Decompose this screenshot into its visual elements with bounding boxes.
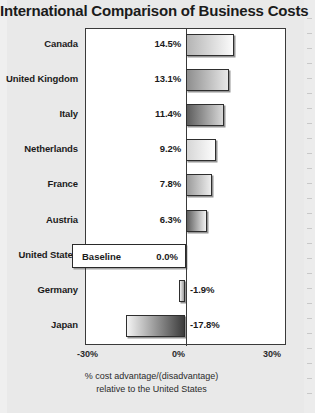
bar-row: Japan-17.8% — [0, 310, 315, 344]
category-label: United Kingdom — [0, 73, 78, 84]
category-label: Austria — [0, 214, 78, 225]
bar-row: Germany-1.9% — [0, 275, 315, 309]
scan-bleed-mark — [307, 393, 312, 394]
bar — [186, 104, 224, 126]
axis-tick-max: 30% — [263, 349, 281, 359]
bar-row: United StatesBaseline0.0% — [0, 240, 315, 274]
axis-tick-min: -30% — [77, 349, 98, 359]
bar-row: Italy11.4% — [0, 99, 315, 133]
bar-value-label: 14.5% — [155, 38, 181, 49]
axis-caption: % cost advantage/(disadvantage) relative… — [0, 370, 303, 396]
bar-value-label: 6.3% — [160, 214, 181, 225]
chart-figure: International Comparison of Business Cos… — [0, 0, 315, 413]
baseline-box: Baseline0.0% — [72, 244, 186, 268]
bar — [186, 69, 230, 91]
baseline-text: Baseline — [82, 251, 121, 262]
bar-row: Austria6.3% — [0, 205, 315, 239]
scan-bleed-mark — [307, 348, 312, 349]
bar-value-label: 7.8% — [160, 178, 181, 189]
axis-caption-line-2: relative to the United States — [0, 383, 303, 396]
bar-row: Netherlands9.2% — [0, 134, 315, 168]
bar — [186, 34, 235, 56]
bar — [179, 280, 185, 302]
scan-bleed-mark — [307, 378, 312, 379]
scan-bleed-mark — [307, 363, 312, 364]
bar-row: France7.8% — [0, 169, 315, 203]
bar-value-label: 9.2% — [160, 143, 181, 154]
bar — [126, 315, 186, 337]
bar-value-label: -17.8% — [190, 319, 220, 330]
axis-caption-line-1: % cost advantage/(disadvantage) — [0, 370, 303, 383]
bar-row: United Kingdom13.1% — [0, 64, 315, 98]
bar-row: Canada14.5% — [0, 29, 315, 63]
chart-title: International Comparison of Business Cos… — [0, 2, 303, 19]
bar-value-label: 13.1% — [155, 73, 181, 84]
category-label: Netherlands — [0, 143, 78, 154]
category-label: Italy — [0, 108, 78, 119]
bar — [186, 174, 212, 196]
category-label: Canada — [0, 38, 78, 49]
baseline-value-label: 0.0% — [156, 251, 178, 262]
bar — [186, 210, 207, 232]
bar — [186, 139, 217, 161]
bar-value-label: 11.4% — [155, 108, 181, 119]
category-label: France — [0, 178, 78, 189]
bar-value-label: -1.9% — [190, 284, 214, 295]
category-label: United States — [0, 249, 78, 260]
category-label: Germany — [0, 284, 78, 295]
category-label: Japan — [0, 319, 78, 330]
axis-tick-zero: 0% — [172, 349, 185, 359]
